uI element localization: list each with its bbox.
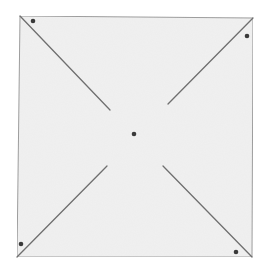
pinwheel-diagram [0, 0, 267, 272]
dot-bottom-left [19, 242, 24, 247]
dot-bottom-right [234, 250, 239, 255]
dot-center [132, 132, 137, 137]
dot-top-right [245, 34, 250, 39]
dot-top-left [31, 19, 36, 24]
